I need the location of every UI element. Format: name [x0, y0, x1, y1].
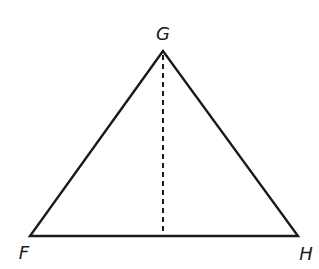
- vertex-label-f: F: [19, 242, 30, 263]
- vertex-label-h: H: [299, 243, 313, 264]
- triangle-diagram: G F H: [0, 0, 319, 269]
- vertex-label-g: G: [156, 23, 170, 44]
